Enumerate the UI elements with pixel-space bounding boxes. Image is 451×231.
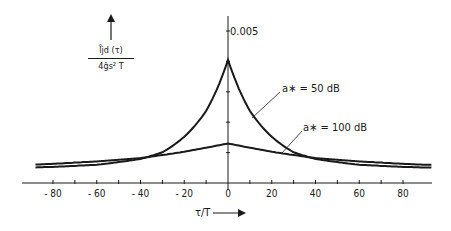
y-max-label: 0.005 (230, 25, 258, 38)
annotation-100db: a∗ = 100 dB (303, 121, 367, 134)
x-tick-label: 0 (225, 188, 231, 199)
xlabel-arrow-head (238, 209, 246, 217)
x-axis-label: τ/T (195, 206, 210, 219)
annot-100-leader (282, 131, 302, 153)
ylabel-arrow-head (107, 14, 115, 22)
x-tick-label: - 80 (44, 188, 62, 199)
x-tick-label: 20 (266, 188, 277, 199)
x-tick-label: - 40 (132, 188, 150, 199)
x-tick-label: - 60 (88, 188, 106, 199)
y-axis-label-numerator: l̊jd (τ) (88, 45, 134, 59)
x-tick-label: 40 (310, 188, 321, 199)
annot-50-leader (252, 92, 280, 118)
series-100db-line (36, 144, 432, 165)
x-tick-label: 60 (354, 188, 365, 199)
annotation-50db: a∗ = 50 dB (282, 82, 340, 95)
x-tick-label: - 20 (175, 188, 193, 199)
y-axis-label: l̊jd (τ) 4ĝs² T (88, 45, 134, 72)
y-axis-label-denominator: 4ĝs² T (88, 59, 134, 72)
x-tick-label: 80 (397, 188, 408, 199)
series-50db-line (36, 60, 432, 168)
